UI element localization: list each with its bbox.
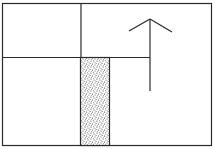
arrow-head-right (150, 19, 172, 32)
floor-plan-diagram (0, 0, 215, 149)
up-arrow (129, 19, 172, 91)
stippled-corridor (81, 58, 110, 146)
arrow-head-left (129, 19, 150, 31)
